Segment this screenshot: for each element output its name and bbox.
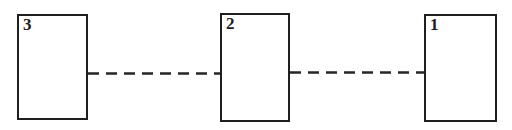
node-box-2: 2 <box>220 13 290 122</box>
node-box-1: 1 <box>424 14 497 122</box>
dashed-connector-3-2 <box>87 72 221 75</box>
node-label-3: 3 <box>23 16 32 35</box>
node-label-2: 2 <box>226 15 235 34</box>
dashed-connector-2-1 <box>289 71 425 74</box>
node-label-1: 1 <box>430 16 439 35</box>
node-box-3: 3 <box>17 14 88 120</box>
diagram-canvas: 3 2 1 <box>0 0 512 130</box>
